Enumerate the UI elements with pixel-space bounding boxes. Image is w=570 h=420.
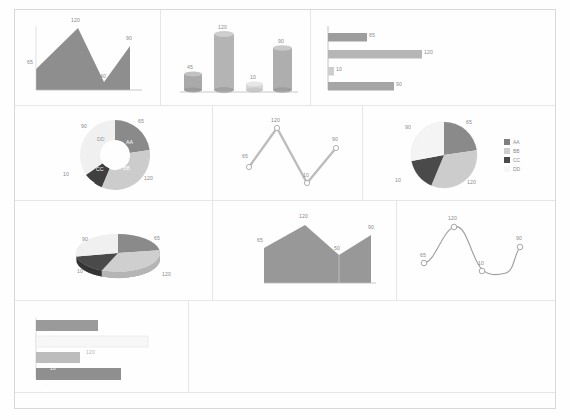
line-series [249, 128, 336, 183]
pie-chart-middle-right[interactable]: 65 120 10 90 AA BB CC DD [368, 110, 554, 198]
data-label: 90 [405, 125, 411, 130]
legend-swatch-icon [504, 157, 510, 163]
spline-chart-lower-right[interactable]: 65 120 10 90 [402, 205, 552, 298]
grid-divider-row-1 [15, 105, 555, 106]
data-label: 10 [303, 173, 309, 178]
area-chart-top-left[interactable]: 65 120 40 90 [20, 12, 156, 102]
data-label: 120 [467, 180, 476, 185]
data-label: 120 [424, 50, 433, 55]
data-label: 65 [242, 154, 248, 159]
legend-item-bb[interactable]: BB [504, 146, 520, 155]
legend-item-dd[interactable]: DD [504, 164, 520, 173]
legend-label: AA [513, 139, 520, 145]
data-label: 90 [368, 225, 374, 230]
area-chart-lower-center[interactable]: 65 120 50 90 [248, 205, 394, 298]
data-label: 65 [138, 119, 144, 124]
spline-marker [451, 224, 457, 230]
bar-dd [36, 368, 121, 380]
grid-divider-col-e [212, 201, 213, 300]
area-series-shape [264, 225, 371, 283]
bar-cc [246, 82, 263, 93]
pie-3d-chart-lower-left[interactable]: 65 120 10 90 [22, 205, 208, 298]
donut-chart-middle-left[interactable]: 65 120 10 90 AA BB CC DD [22, 110, 208, 198]
data-label: 10 [395, 178, 401, 183]
bar-value-label: 90 [44, 383, 50, 388]
data-label: 65 [154, 236, 160, 241]
spline-series [424, 227, 520, 275]
data-label: 90 [396, 82, 402, 87]
grid-divider-col-f [396, 201, 397, 300]
grid-divider-row-4 [15, 392, 555, 393]
bar-bb [214, 31, 234, 93]
donut-slice-aa [115, 120, 150, 153]
bar-bb [36, 336, 148, 347]
data-label: 65 [27, 60, 33, 65]
data-label: 90 [126, 36, 132, 41]
data-label: 120 [71, 18, 80, 23]
bar-aa [184, 71, 202, 92]
line-chart-svg [218, 110, 358, 198]
data-label: 90 [278, 39, 284, 44]
data-label: 50 [334, 246, 340, 251]
bar-cc [36, 352, 80, 363]
slice-inner-label: DD [97, 137, 105, 142]
slice-inner-label: BB [123, 166, 130, 171]
line-chart-middle-center[interactable]: 65 120 10 90 [218, 110, 358, 198]
data-label: 10 [250, 75, 256, 80]
pie-chart-svg [368, 110, 554, 198]
grid-divider-col-c [212, 106, 213, 200]
data-label: 120 [271, 118, 280, 123]
pie-slice-dd [411, 122, 444, 161]
legend-item-cc[interactable]: CC [504, 155, 520, 164]
data-label: 90 [332, 137, 338, 142]
bar-aa [36, 320, 98, 331]
legend-swatch-icon [504, 139, 510, 145]
data-label: 90 [516, 236, 522, 241]
data-label: 90 [82, 237, 88, 242]
horizontal-bar-chart-top-right[interactable]: 65 120 10 90 [320, 12, 456, 102]
line-marker [274, 125, 279, 130]
spline-marker [517, 244, 523, 250]
legend-item-aa[interactable]: AA [504, 137, 520, 146]
line-marker [304, 180, 309, 185]
data-label: 120 [448, 216, 457, 221]
cylinder-bar-chart-top-middle[interactable]: 45 120 10 90 [172, 12, 304, 102]
data-label: 10 [63, 172, 69, 177]
grid-divider-col-a [160, 10, 161, 105]
bar-value-label: 10 [50, 366, 56, 371]
grid-divider-row-3 [15, 300, 555, 301]
grid-divider-row-2 [15, 200, 555, 201]
cylinder-bar-chart-svg [172, 12, 304, 102]
slice-inner-label: CC [96, 167, 104, 172]
horizontal-bar-chart-bottom-left[interactable]: 65 120 10 90 [24, 312, 194, 388]
data-label: 90 [81, 124, 87, 129]
data-label: 10 [77, 269, 83, 274]
data-label: 10 [336, 67, 342, 72]
pie-slice-aa [444, 122, 477, 155]
bar-bb [328, 50, 422, 59]
area-chart-lower-svg [248, 205, 394, 298]
spline-marker [421, 260, 427, 266]
data-label: 120 [162, 272, 171, 277]
legend-label: DD [513, 166, 520, 172]
legend-label: BB [513, 148, 520, 154]
pie-chart-legend: AA BB CC DD [504, 137, 520, 173]
line-marker [333, 145, 338, 150]
bar-aa [328, 33, 367, 42]
legend-swatch-icon [504, 166, 510, 172]
spline-marker [479, 268, 485, 274]
bar-dd [273, 45, 292, 93]
legend-label: CC [513, 157, 520, 163]
data-label: 120 [218, 25, 227, 30]
slice-inner-label: AA [126, 140, 133, 145]
bar-cc [328, 67, 334, 76]
grid-divider-col-b [310, 10, 311, 105]
grid-divider-col-d [362, 106, 363, 200]
hbar-chart-svg [320, 12, 456, 102]
legend-swatch-icon [504, 148, 510, 154]
bar-value-label: 65 [44, 334, 50, 339]
chart-gallery-page: 65 120 40 90 [0, 0, 570, 420]
data-label: 40 [100, 74, 106, 79]
data-label: 10 [478, 261, 484, 266]
data-label: 120 [299, 214, 308, 219]
